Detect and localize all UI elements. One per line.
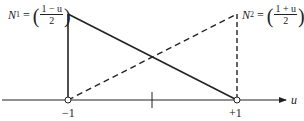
n1-denominator: 2: [49, 15, 54, 26]
tick-label-minus-one: −1: [62, 106, 75, 121]
n2-symbol: N: [242, 9, 250, 21]
node-left: [65, 97, 71, 103]
axis-label-u: u: [291, 93, 297, 108]
node-right: [234, 97, 240, 103]
n2-numerator: 1 + u: [274, 3, 297, 15]
n1-symbol: N: [8, 9, 16, 21]
n1-label: N1 = ( 1 − u2 ): [8, 3, 71, 26]
n1-subscript: 1: [16, 11, 20, 19]
n1-equals: =: [23, 9, 30, 21]
n2-subscript: 2: [250, 11, 254, 19]
n2-label: N2 = ( 1 + u2 ): [242, 3, 304, 26]
n1-numerator: 1 − u: [40, 3, 63, 15]
n2-denominator: 2: [283, 15, 288, 26]
n2-equals: =: [257, 9, 264, 21]
tick-label-plus-one: +1: [229, 106, 242, 121]
